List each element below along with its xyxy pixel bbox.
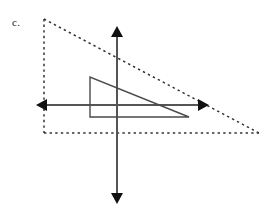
solid-triangle-group xyxy=(90,77,189,117)
dashed-triangle-hypotenuse xyxy=(44,19,259,133)
x-axis-right-arrowhead xyxy=(198,99,209,111)
x-axis-left-arrowhead xyxy=(36,99,47,111)
solid-triangle-outline xyxy=(90,77,189,117)
y-axis-down-arrowhead xyxy=(111,193,123,204)
figure-container: c. xyxy=(0,0,274,212)
y-axis-up-arrowhead xyxy=(111,26,123,37)
dashed-triangle-group xyxy=(44,19,259,133)
geometry-figure xyxy=(0,0,274,212)
